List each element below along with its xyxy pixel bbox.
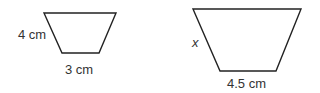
large-side-label: x [192, 36, 199, 49]
small-base-label: 3 cm [65, 63, 93, 76]
large-trapezoid [193, 9, 301, 71]
large-base-label: 4.5 cm [227, 77, 266, 90]
small-trapezoid [44, 13, 116, 53]
trapezoid-diagram [0, 0, 320, 93]
small-side-label: 4 cm [18, 28, 46, 41]
